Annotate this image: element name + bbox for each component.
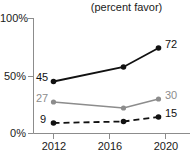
series-top-point-2021: [156, 45, 162, 51]
series-middle-point-2021: [156, 96, 161, 101]
x-axis-label-2012: 2012: [34, 140, 74, 152]
series-top-line: [54, 48, 159, 82]
y-axis-label-100: 100%: [0, 12, 26, 24]
series-bottom-point-2017: [121, 119, 127, 125]
y-axis-label-0: 0%: [0, 127, 26, 139]
series-top-start-value: 45: [36, 71, 48, 83]
chart-plot-area: [0, 0, 193, 158]
series-top-point-2012: [51, 79, 57, 85]
series-bottom-start-value: 9: [40, 113, 46, 125]
series-middle-end-value: 30: [165, 89, 177, 101]
series-bottom-point-2012: [51, 120, 57, 126]
chart-container: (percent favor) 100% 50% 0% 2012 20: [0, 0, 193, 158]
series-bottom-end-value: 15: [165, 107, 177, 119]
series-middle-point-2012: [51, 99, 56, 104]
series-top-point-2017: [121, 64, 127, 70]
series-bottom-point-2021: [156, 114, 162, 120]
series-middle-start-value: 27: [36, 92, 48, 104]
series-top-end-value: 72: [165, 38, 177, 50]
series-middle-line: [54, 99, 159, 108]
x-axis-label-2016: 2016: [90, 140, 130, 152]
series-middle-point-2017: [121, 105, 126, 110]
x-axis-label-2020: 2020: [146, 140, 186, 152]
y-axis-label-50: 50%: [0, 70, 26, 82]
series-bottom-line: [54, 117, 159, 123]
